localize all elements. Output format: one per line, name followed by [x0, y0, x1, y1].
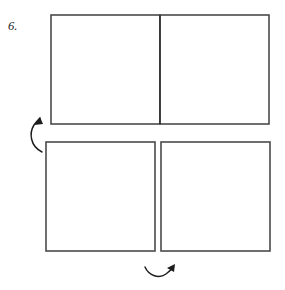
tile-top-right — [160, 15, 269, 124]
rotation-arrow-left — [31, 117, 43, 152]
tile-border-top-right — [160, 15, 269, 124]
figure-label: 6. — [8, 19, 17, 33]
arrow-head-icon — [167, 264, 175, 272]
tile-border-top-left — [51, 15, 160, 124]
tile-border-bottom-right — [161, 142, 270, 251]
arrow-head-icon — [34, 117, 43, 125]
tile-top-left — [51, 15, 160, 124]
tile-border-bottom-left — [46, 142, 155, 251]
figure-root: 6. — [0, 0, 285, 290]
top-rectangle-group — [51, 15, 269, 124]
tile-bottom-right — [161, 142, 270, 251]
rotation-arrow-bottom — [145, 264, 175, 276]
tile-bottom-left — [46, 142, 155, 251]
geometric-figure: 6. — [0, 0, 285, 290]
